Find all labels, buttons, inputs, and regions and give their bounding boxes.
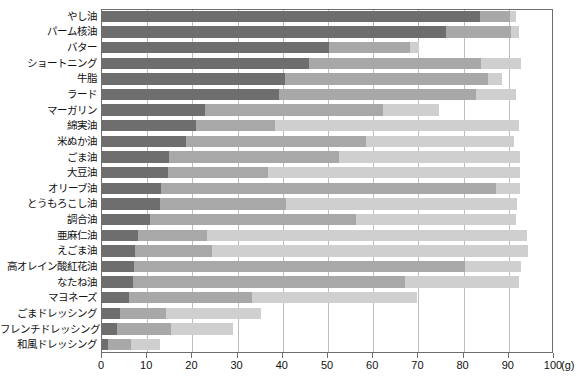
y-axis-label: 米ぬか油 bbox=[0, 136, 97, 147]
bar-segment-segment-2 bbox=[285, 73, 488, 84]
y-axis-label: マヨネーズ bbox=[0, 292, 97, 303]
bar-row bbox=[101, 134, 553, 150]
bar-segment-segment-2 bbox=[446, 26, 512, 37]
x-axis-tick bbox=[282, 353, 283, 358]
bar-segment-segment-3 bbox=[366, 136, 514, 147]
bar-row bbox=[101, 181, 553, 197]
bar-segment-segment-2 bbox=[168, 167, 268, 178]
bar-segment-segment-2 bbox=[329, 42, 410, 53]
bar-segment-segment-1 bbox=[101, 292, 129, 303]
bar-segment-segment-3 bbox=[410, 42, 419, 53]
bar-segment-segment-1 bbox=[101, 167, 168, 178]
x-axis-tick bbox=[237, 353, 238, 358]
bar-row bbox=[101, 290, 553, 306]
bar-segment-segment-2 bbox=[309, 58, 481, 69]
bar-row bbox=[101, 40, 553, 56]
y-axis-label: ごま油 bbox=[0, 152, 97, 163]
bar-segment-segment-2 bbox=[169, 151, 339, 162]
y-axis-label: 和風ドレッシング bbox=[0, 339, 97, 350]
bar-segment-segment-3 bbox=[252, 292, 417, 303]
bar-row bbox=[101, 9, 553, 25]
bar-segment-segment-1 bbox=[101, 151, 169, 162]
bar-row bbox=[101, 306, 553, 322]
y-axis-label: なたね油 bbox=[0, 277, 97, 288]
y-axis-label: 綿実油 bbox=[0, 120, 97, 131]
x-axis-tick-label: 30 bbox=[230, 359, 242, 372]
bar-row bbox=[101, 212, 553, 228]
bar-row bbox=[101, 165, 553, 181]
y-axis-label: オリーブ油 bbox=[0, 183, 97, 194]
bar-row bbox=[101, 25, 553, 41]
y-axis-label: ラード bbox=[0, 89, 97, 100]
bar-segment-segment-2 bbox=[279, 89, 476, 100]
bar-segment-segment-1 bbox=[101, 120, 196, 131]
bar-row bbox=[101, 259, 553, 275]
bar-segment-segment-2 bbox=[133, 276, 405, 287]
bar-segment-segment-1 bbox=[101, 104, 205, 115]
bar-row bbox=[101, 275, 553, 291]
y-axis-label: 高オレイン酸紅花油 bbox=[0, 261, 97, 272]
bar-segment-segment-3 bbox=[166, 308, 261, 319]
x-axis-tick-label: 20 bbox=[185, 359, 197, 372]
x-axis: 0102030405060708090100(g) bbox=[101, 353, 553, 383]
bar-segment-segment-1 bbox=[101, 214, 150, 225]
bar-segment-segment-1 bbox=[101, 136, 186, 147]
y-axis-label: ショートニング bbox=[0, 58, 97, 69]
bar-row bbox=[101, 72, 553, 88]
x-axis-tick-label: 80 bbox=[456, 359, 468, 372]
bar-segment-segment-1 bbox=[101, 339, 108, 350]
bar-row bbox=[101, 56, 553, 72]
x-axis-tick-label: 50 bbox=[321, 359, 333, 372]
bar-segment-segment-3 bbox=[405, 276, 519, 287]
bar-segment-segment-3 bbox=[131, 339, 160, 350]
y-axis-label: バター bbox=[0, 42, 97, 53]
bar-segment-segment-3 bbox=[511, 26, 519, 37]
bar-row bbox=[101, 322, 553, 338]
bar-segment-segment-3 bbox=[356, 214, 516, 225]
x-axis-unit-label: (g) bbox=[561, 359, 574, 372]
x-axis-tick bbox=[508, 353, 509, 358]
bar-row bbox=[101, 228, 553, 244]
bar-segment-segment-1 bbox=[101, 323, 117, 334]
y-axis-label: 亜麻仁油 bbox=[0, 230, 97, 241]
x-axis-tick bbox=[191, 353, 192, 358]
bar-row bbox=[101, 244, 553, 260]
x-axis-tick-label: 0 bbox=[98, 359, 104, 372]
bar-segment-segment-3 bbox=[476, 89, 517, 100]
bar-segment-segment-3 bbox=[207, 230, 527, 241]
x-axis-tick-label: 10 bbox=[140, 359, 152, 372]
x-axis-tick-label: 60 bbox=[366, 359, 378, 372]
bar-segment-segment-1 bbox=[101, 245, 135, 256]
bar-row bbox=[101, 197, 553, 213]
x-axis-tick-label: 100 bbox=[544, 359, 562, 372]
bar-row bbox=[101, 337, 553, 353]
bar-row bbox=[101, 118, 553, 134]
y-axis-label: 牛脂 bbox=[0, 73, 97, 84]
bar-segment-segment-3 bbox=[171, 323, 233, 334]
bars-layer bbox=[101, 9, 553, 353]
bar-segment-segment-1 bbox=[101, 230, 138, 241]
bar-segment-segment-1 bbox=[101, 42, 329, 53]
x-axis-tick bbox=[553, 353, 554, 358]
bar-segment-segment-2 bbox=[134, 261, 465, 272]
bar-segment-segment-2 bbox=[150, 214, 356, 225]
bar-segment-segment-1 bbox=[101, 308, 120, 319]
bar-segment-segment-3 bbox=[275, 120, 519, 131]
bar-segment-segment-3 bbox=[481, 58, 522, 69]
x-axis-tick bbox=[417, 353, 418, 358]
bar-segment-segment-3 bbox=[383, 104, 440, 115]
bar-segment-segment-2 bbox=[117, 323, 171, 334]
bar-segment-segment-2 bbox=[108, 339, 131, 350]
bar-segment-segment-3 bbox=[286, 198, 517, 209]
y-axis-label: 調合油 bbox=[0, 214, 97, 225]
y-axis-label: とうもろこし油 bbox=[0, 198, 97, 209]
stacked-bar-chart: やし油パーム核油バターショートニング牛脂ラードマーガリン綿実油米ぬか油ごま油大豆… bbox=[0, 0, 588, 392]
bar-segment-segment-3 bbox=[510, 11, 517, 22]
x-axis-tick bbox=[146, 353, 147, 358]
y-axis-label: ごまドレッシング bbox=[0, 308, 97, 319]
y-axis-label: えごま油 bbox=[0, 245, 97, 256]
bar-segment-segment-1 bbox=[101, 261, 134, 272]
bar-segment-segment-2 bbox=[160, 198, 286, 209]
bar-segment-segment-2 bbox=[138, 230, 208, 241]
y-axis-label: マーガリン bbox=[0, 105, 97, 116]
